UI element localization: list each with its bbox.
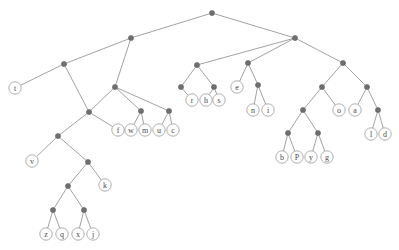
internal-node[interactable] xyxy=(292,35,297,40)
internal-node[interactable] xyxy=(340,60,345,65)
internal-node[interactable] xyxy=(300,107,305,112)
leaf-node-c[interactable]: c xyxy=(167,124,179,136)
internal-node[interactable] xyxy=(85,159,90,164)
tree-edge xyxy=(313,136,318,152)
tree-edge xyxy=(90,164,102,180)
tree-edge xyxy=(214,14,292,38)
tree-edge xyxy=(54,212,60,228)
tree-edge xyxy=(319,135,325,151)
internal-node[interactable] xyxy=(128,35,133,40)
tree-edge xyxy=(183,89,188,95)
leaf-label: c xyxy=(171,126,175,135)
leaf-label: v xyxy=(30,157,34,166)
leaf-label: r xyxy=(191,96,194,105)
leaf-label: j xyxy=(91,230,94,239)
leaf-node-k[interactable]: k xyxy=(99,179,111,191)
internal-node[interactable] xyxy=(65,183,70,188)
tree-edge xyxy=(345,65,365,85)
tree-edge xyxy=(117,89,139,109)
leaf-node-v[interactable]: v xyxy=(26,155,38,167)
leaf-node-m[interactable]: m xyxy=(139,124,151,136)
internal-node[interactable] xyxy=(364,84,369,89)
tree-edge xyxy=(324,65,342,85)
leaf-node-n[interactable]: n xyxy=(247,104,259,116)
leaf-node-r[interactable]: r xyxy=(186,94,198,106)
leaf-node-f[interactable]: f xyxy=(112,124,124,136)
tree-edge xyxy=(69,188,82,208)
edge-layer xyxy=(21,14,384,228)
tree-edge xyxy=(170,114,172,124)
tree-edge xyxy=(54,188,66,208)
leaf-node-q[interactable]: q xyxy=(56,228,68,240)
tree-edge xyxy=(215,89,217,94)
leaf-label: e xyxy=(235,83,239,92)
tree-edge xyxy=(358,89,366,104)
leaf-node-j[interactable]: j xyxy=(87,228,99,240)
tree-edge xyxy=(91,89,113,110)
tree-edge xyxy=(85,212,91,228)
tree-edge xyxy=(183,67,196,85)
tree-edge xyxy=(305,89,321,108)
internal-node[interactable] xyxy=(138,108,143,113)
tree-edge xyxy=(304,112,316,131)
internal-node[interactable] xyxy=(166,108,171,113)
internal-node[interactable] xyxy=(319,84,324,89)
internal-node[interactable] xyxy=(112,84,117,89)
tree-edge xyxy=(36,138,56,157)
tree-edge xyxy=(250,39,292,62)
leaf-node-u[interactable]: u xyxy=(153,124,165,136)
leaf-node-x[interactable]: x xyxy=(72,228,84,240)
leaf-label: b xyxy=(280,153,284,162)
leaf-label: h xyxy=(204,96,208,105)
leaf-node-t[interactable]: t xyxy=(9,82,21,94)
internal-node[interactable] xyxy=(255,82,260,87)
tree-edge xyxy=(324,89,336,105)
tree-edge xyxy=(240,65,247,81)
leaf-node-w[interactable]: w xyxy=(125,124,137,136)
internal-node[interactable] xyxy=(194,62,199,67)
internal-node[interactable] xyxy=(209,10,214,15)
internal-node[interactable] xyxy=(285,130,290,135)
tree-edge xyxy=(70,164,87,184)
leaf-node-b[interactable]: b xyxy=(276,151,288,163)
internal-node[interactable] xyxy=(211,84,216,89)
leaf-node-h[interactable]: h xyxy=(200,94,212,106)
tree-edge xyxy=(249,65,257,82)
tree-edge xyxy=(379,113,384,129)
tree-edge xyxy=(284,136,288,151)
internal-node[interactable] xyxy=(86,109,91,114)
leaf-label: n xyxy=(251,106,255,115)
leaf-node-o[interactable]: o xyxy=(333,104,345,116)
leaf-label: a xyxy=(353,106,357,115)
tree-edge xyxy=(116,40,130,84)
leaf-node-s[interactable]: s xyxy=(213,94,225,106)
leaf-label: g xyxy=(325,153,329,162)
internal-node[interactable] xyxy=(50,207,55,212)
leaf-node-l[interactable]: l xyxy=(365,128,377,140)
leaf-label: d xyxy=(383,130,387,139)
leaf-node-g[interactable]: g xyxy=(321,151,333,163)
leaf-node-y[interactable]: y xyxy=(305,151,317,163)
internal-node[interactable] xyxy=(178,84,183,89)
leaf-label: w xyxy=(128,126,134,135)
leaf-node-i[interactable]: i xyxy=(262,104,274,116)
leaf-node-a[interactable]: a xyxy=(349,104,361,116)
tree-edge xyxy=(117,88,166,110)
tree-edge xyxy=(48,213,53,229)
internal-node[interactable] xyxy=(55,133,60,138)
internal-node[interactable] xyxy=(61,61,66,66)
tree-edge xyxy=(21,65,62,85)
internal-node[interactable] xyxy=(245,60,250,65)
tree-edge xyxy=(142,114,144,124)
leaf-label: z xyxy=(44,230,48,239)
tree-edge xyxy=(91,113,113,126)
tree-canvas: terhsnioafwmucldvbPygkzqxj xyxy=(0,0,399,250)
leaf-node-z[interactable]: z xyxy=(40,228,52,240)
leaf-node-e[interactable]: e xyxy=(231,81,243,93)
internal-node[interactable] xyxy=(315,130,320,135)
tree-edge xyxy=(65,66,88,109)
internal-node[interactable] xyxy=(375,107,380,112)
leaf-node-d[interactable]: d xyxy=(379,128,391,140)
leaf-node-P[interactable]: P xyxy=(291,151,303,163)
internal-node[interactable] xyxy=(81,207,86,212)
